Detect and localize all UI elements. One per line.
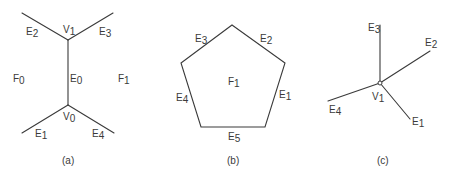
panel-a: V1 E2 E3 F0 E0 F1 V0 E1 E4 [13, 13, 130, 166]
face-f0-label: F0 [13, 73, 25, 86]
edge-e1-line [22, 105, 68, 133]
edge-e3-label: E3 [195, 33, 208, 46]
face-f1-label: F1 [228, 76, 240, 89]
edge-e4-label: E4 [176, 92, 189, 105]
vertex-v1-label: V1 [372, 91, 385, 104]
panel-a-caption: (a) [62, 155, 74, 166]
winged-edge-figure: V1 E2 E3 F0 E0 F1 V0 E1 E4 [0, 0, 449, 172]
edge-e1-label: E1 [35, 128, 48, 141]
edge-e4-label: E4 [329, 104, 342, 117]
edge-e2-label: E2 [26, 26, 39, 39]
edge-e3-label: E3 [99, 26, 112, 39]
edge-e2-line [380, 51, 430, 83]
edge-e2-label: E2 [260, 33, 273, 46]
edge-e0-label: E0 [70, 73, 83, 86]
panel-b-caption: (b) [227, 155, 239, 166]
panel-b: E3 E2 F1 E1 E4 E5 (b) [176, 25, 292, 166]
panel-c: E3 E2 V1 E4 E1 (c) [328, 22, 438, 166]
edge-e3-label: E3 [368, 22, 381, 35]
vertex-v1-dot [378, 81, 382, 85]
edge-e1-label: E1 [279, 89, 292, 102]
edge-e5-label: E5 [228, 131, 241, 144]
edge-e4-label: E4 [92, 128, 105, 141]
vertex-v1-label: V1 [63, 24, 76, 37]
vertex-v0-label: V0 [63, 111, 76, 124]
edge-e1-line [380, 83, 410, 119]
panel-c-caption: (c) [377, 155, 389, 166]
edge-e2-label: E2 [425, 37, 438, 50]
face-f1-label: F1 [118, 73, 130, 86]
edge-e1-label: E1 [412, 116, 425, 129]
